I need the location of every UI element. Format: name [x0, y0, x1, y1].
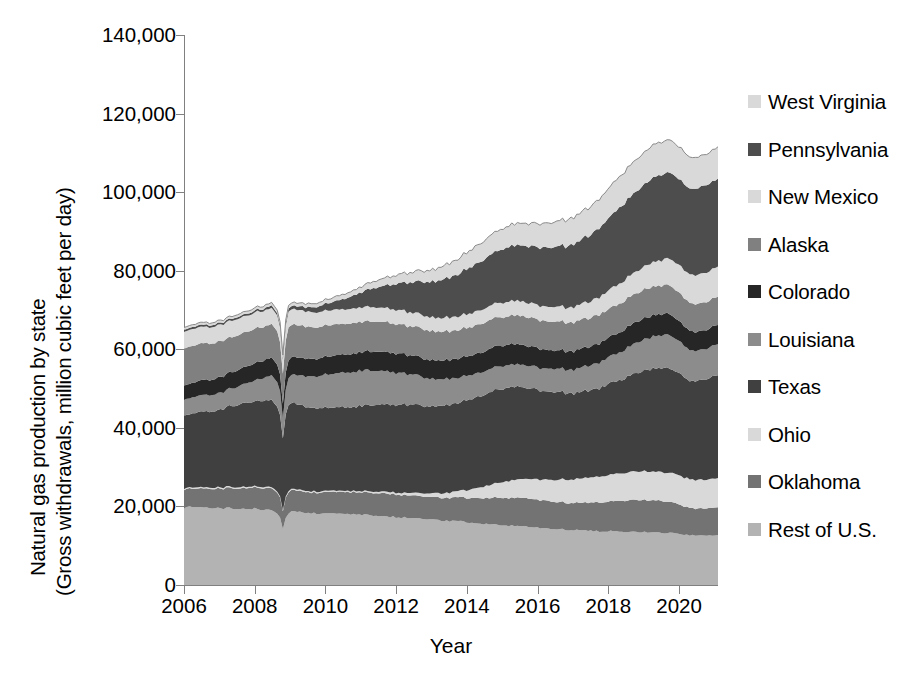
legend-item-label: Rest of U.S. — [768, 519, 877, 540]
legend-swatch-icon — [748, 238, 761, 251]
y-axis-title-line-1: Natural gas production by state — [26, 298, 50, 576]
x-tick-mark — [396, 586, 397, 594]
legend-item-label: Colorado — [768, 281, 850, 302]
legend-item-label: Oklahoma — [768, 471, 860, 492]
legend-item-label: Ohio — [768, 424, 811, 445]
legend-swatch-icon — [748, 475, 761, 488]
y-axis-tick-labels: 020,00040,00060,00080,000100,000120,0001… — [60, 0, 176, 620]
x-tick-label: 2020 — [644, 596, 714, 617]
x-axis-title: Year — [184, 634, 718, 658]
x-tick-mark — [538, 586, 539, 594]
legend-item-label: West Virginia — [768, 91, 886, 112]
y-tick-mark — [176, 35, 184, 36]
x-tick-label: 2006 — [149, 596, 219, 617]
y-tick-label: 80,000 — [60, 261, 176, 282]
legend-item[interactable]: Oklahoma — [748, 458, 923, 506]
legend-item[interactable]: Louisiana — [748, 316, 923, 364]
legend-item[interactable]: Rest of U.S. — [748, 506, 923, 554]
y-tick-mark — [176, 585, 184, 586]
chart-legend: West VirginiaPennsylvaniaNew MexicoAlask… — [748, 78, 923, 553]
x-tick-mark — [608, 586, 609, 594]
y-tick-label: 120,000 — [60, 104, 176, 125]
x-tick-mark — [184, 586, 185, 594]
y-tick-mark — [176, 349, 184, 350]
legend-swatch-icon — [748, 285, 761, 298]
y-axis-title: Natural gas production by state (Gross w… — [0, 0, 64, 600]
legend-item-label: Louisiana — [768, 329, 854, 350]
y-tick-mark — [176, 192, 184, 193]
legend-item-label: Texas — [768, 376, 821, 397]
x-tick-label: 2016 — [503, 596, 573, 617]
x-axis-line — [184, 585, 718, 586]
legend-item[interactable]: Ohio — [748, 411, 923, 459]
legend-item-label: Pennsylvania — [768, 139, 888, 160]
x-tick-mark — [679, 586, 680, 594]
plot-area — [184, 35, 718, 585]
x-tick-label: 2014 — [432, 596, 502, 617]
legend-item-label: Alaska — [768, 234, 829, 255]
stacked-area-plot — [184, 35, 718, 585]
y-tick-label: 40,000 — [60, 418, 176, 439]
y-tick-label: 0 — [60, 575, 176, 596]
y-tick-label: 140,000 — [60, 25, 176, 46]
x-tick-label: 2008 — [220, 596, 290, 617]
legend-item-label: New Mexico — [768, 186, 878, 207]
chart-figure: Natural gas production by state (Gross w… — [0, 0, 923, 681]
legend-item[interactable]: West Virginia — [748, 78, 923, 126]
y-tick-label: 100,000 — [60, 182, 176, 203]
x-tick-mark — [255, 586, 256, 594]
legend-swatch-icon — [748, 143, 761, 156]
legend-item[interactable]: Texas — [748, 363, 923, 411]
legend-swatch-icon — [748, 95, 761, 108]
x-tick-label: 2012 — [361, 596, 431, 617]
legend-swatch-icon — [748, 190, 761, 203]
legend-swatch-icon — [748, 333, 761, 346]
y-tick-mark — [176, 114, 184, 115]
legend-swatch-icon — [748, 523, 761, 536]
y-tick-label: 20,000 — [60, 496, 176, 517]
legend-item[interactable]: New Mexico — [748, 173, 923, 221]
x-tick-label: 2018 — [573, 596, 643, 617]
legend-swatch-icon — [748, 428, 761, 441]
x-tick-mark — [467, 586, 468, 594]
legend-item[interactable]: Colorado — [748, 268, 923, 316]
x-tick-label: 2010 — [290, 596, 360, 617]
y-tick-mark — [176, 428, 184, 429]
x-tick-mark — [325, 586, 326, 594]
y-tick-mark — [176, 271, 184, 272]
legend-item[interactable]: Alaska — [748, 221, 923, 269]
legend-item[interactable]: Pennsylvania — [748, 126, 923, 174]
y-tick-label: 60,000 — [60, 339, 176, 360]
legend-swatch-icon — [748, 380, 761, 393]
y-tick-mark — [176, 506, 184, 507]
